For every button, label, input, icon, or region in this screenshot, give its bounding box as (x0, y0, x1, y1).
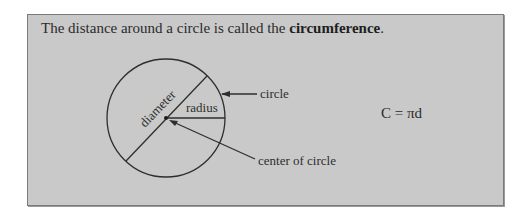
center-dot (164, 116, 168, 120)
circle-label: circle (260, 86, 289, 101)
center-label: center of circle (258, 153, 336, 168)
circumference-formula: C = πd (381, 105, 422, 122)
radius-label: radius (186, 100, 218, 115)
center-arrowhead-icon (169, 120, 178, 126)
circle-arrowhead-icon (221, 91, 230, 97)
circle-diagram: diameter radius circle center of circle (0, 0, 531, 217)
